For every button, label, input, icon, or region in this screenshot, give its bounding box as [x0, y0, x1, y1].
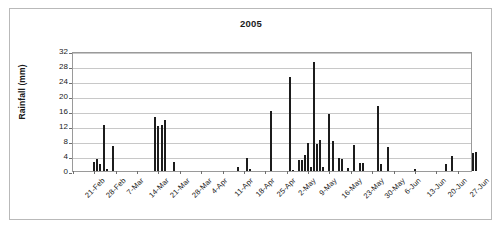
- bar: [99, 164, 101, 172]
- y-axis-tick-mark: [69, 98, 72, 99]
- bar: [362, 163, 364, 171]
- y-axis-tick-label: 32: [52, 48, 68, 56]
- bar: [445, 164, 447, 171]
- x-axis-tick-labels: 21-Feb28-Feb7-Mar14-Mar21-Mar28-Mar4-Apr…: [72, 176, 472, 224]
- y-axis-tick-mark: [69, 68, 72, 69]
- chart-title: 2005: [0, 18, 502, 29]
- x-axis-tick-mark: [116, 171, 117, 174]
- x-axis-tick-mark: [394, 171, 395, 174]
- bar: [347, 168, 349, 171]
- bar: [353, 145, 355, 171]
- gridline: [73, 53, 471, 54]
- bar: [173, 162, 175, 171]
- bar: [246, 158, 248, 171]
- y-axis-tick-label: 8: [52, 138, 68, 146]
- x-axis-tick-label: 21-Feb: [83, 176, 107, 200]
- y-axis-tick-mark: [69, 53, 72, 54]
- bar: [164, 120, 166, 171]
- bar: [270, 111, 272, 171]
- y-axis-tick-label: 20: [52, 93, 68, 101]
- y-axis-tick-label: 4: [52, 153, 68, 161]
- x-axis-tick-label: 21-Mar: [169, 176, 193, 200]
- x-axis-tick-mark: [458, 171, 459, 174]
- x-axis-tick-mark: [180, 171, 181, 174]
- bar: [328, 114, 330, 171]
- x-axis-tick-label: 11-Apr: [232, 176, 254, 198]
- bar: [298, 160, 300, 171]
- bar: [304, 155, 306, 171]
- bar: [289, 77, 291, 172]
- x-axis-tick-mark: [158, 171, 159, 174]
- x-axis-tick-label: 9-May: [317, 176, 338, 197]
- x-axis-tick-mark: [287, 171, 288, 174]
- bar: [377, 106, 379, 171]
- y-axis-tick-mark: [69, 158, 72, 159]
- x-axis-tick-label: 16-May: [340, 176, 364, 200]
- gridline: [73, 98, 471, 99]
- x-axis-tick-label: 2-May: [296, 176, 317, 197]
- x-axis-tick-label: 18-Apr: [254, 176, 277, 199]
- x-axis-tick-mark: [436, 171, 437, 174]
- x-axis-tick-mark: [351, 171, 352, 174]
- bar: [103, 125, 105, 171]
- y-axis-title: Rainfall (mm): [17, 46, 27, 138]
- bar: [292, 170, 294, 172]
- x-axis-tick-mark: [73, 171, 74, 174]
- bar: [157, 126, 159, 171]
- x-axis-tick-label: 7-Mar: [125, 176, 146, 197]
- y-axis-tick-label: 24: [52, 78, 68, 86]
- x-axis-tick-label: 23-May: [361, 176, 385, 200]
- x-axis-tick-mark: [244, 171, 245, 174]
- bar: [359, 163, 361, 171]
- x-axis-tick-mark: [137, 171, 138, 174]
- y-axis-tick-label: 28: [52, 63, 68, 71]
- y-axis-tick-label: 12: [52, 123, 68, 131]
- x-axis-tick-mark: [94, 171, 95, 174]
- y-axis-tick-mark: [69, 128, 72, 129]
- y-axis-tick-mark: [69, 173, 72, 174]
- bar: [475, 152, 477, 171]
- bar: [380, 164, 382, 171]
- x-axis-tick-label: 28-Feb: [104, 176, 128, 200]
- x-axis-tick-mark: [201, 171, 202, 174]
- bar: [472, 153, 474, 171]
- bar: [310, 167, 312, 171]
- bar: [301, 160, 303, 171]
- gridline: [73, 83, 471, 84]
- bar: [112, 146, 114, 171]
- y-axis-tick-label: 0: [52, 168, 68, 176]
- plot-area: [72, 52, 472, 172]
- chart-figure: 2005 Rainfall (mm) 048121620242832 21-Fe…: [0, 0, 502, 229]
- bar: [387, 147, 389, 171]
- x-axis-tick-mark: [415, 171, 416, 174]
- bar: [161, 125, 163, 171]
- x-axis-tick-label: 20-Jun: [446, 176, 469, 199]
- bar: [332, 141, 334, 171]
- bar: [237, 167, 239, 172]
- bar: [154, 117, 156, 171]
- bar: [338, 158, 340, 171]
- x-axis-tick-label: 6-Jun: [402, 176, 422, 196]
- x-axis-tick-mark: [308, 171, 309, 174]
- bar: [316, 144, 318, 171]
- bar: [307, 143, 309, 171]
- x-axis-tick-label: 14-Mar: [147, 176, 171, 200]
- bar: [249, 169, 251, 171]
- x-axis-tick-mark: [265, 171, 266, 174]
- x-axis-tick-mark: [372, 171, 373, 174]
- y-axis-tick-mark: [69, 143, 72, 144]
- x-axis-tick-label: 13-Jun: [425, 176, 448, 199]
- bar: [451, 156, 453, 171]
- bar: [341, 159, 343, 171]
- y-axis-tick-label: 16: [52, 108, 68, 116]
- x-axis-tick-label: 4-Apr: [210, 176, 230, 196]
- bar: [313, 62, 315, 172]
- x-axis-tick-mark: [223, 171, 224, 174]
- bar: [106, 169, 108, 171]
- bar: [96, 159, 98, 171]
- y-axis-tick-mark: [69, 113, 72, 114]
- x-axis-tick-mark: [329, 171, 330, 174]
- x-axis-tick-label: 25-Apr: [275, 176, 298, 199]
- y-axis-tick-mark: [69, 83, 72, 84]
- bar: [93, 162, 95, 171]
